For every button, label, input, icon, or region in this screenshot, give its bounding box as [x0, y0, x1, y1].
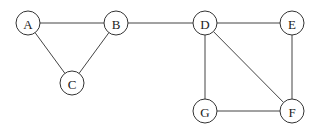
- edges: [35, 23, 292, 111]
- node-label: B: [112, 17, 121, 32]
- nodes: ABCDEFG: [16, 11, 304, 123]
- node-label: E: [288, 17, 296, 32]
- node-c: C: [60, 71, 84, 95]
- edge-a-c: [35, 33, 65, 74]
- node-label: C: [68, 77, 77, 92]
- graph-diagram: ABCDEFG: [0, 0, 322, 133]
- edge-b-c: [79, 33, 109, 74]
- node-label: G: [200, 105, 209, 120]
- node-e: E: [280, 11, 304, 35]
- edge-d-f: [213, 32, 283, 103]
- node-label: A: [23, 17, 33, 32]
- node-g: G: [193, 99, 217, 123]
- node-d: D: [193, 11, 217, 35]
- node-label: F: [288, 105, 295, 120]
- node-label: D: [200, 17, 209, 32]
- node-f: F: [280, 99, 304, 123]
- node-a: A: [16, 11, 40, 35]
- node-b: B: [104, 11, 128, 35]
